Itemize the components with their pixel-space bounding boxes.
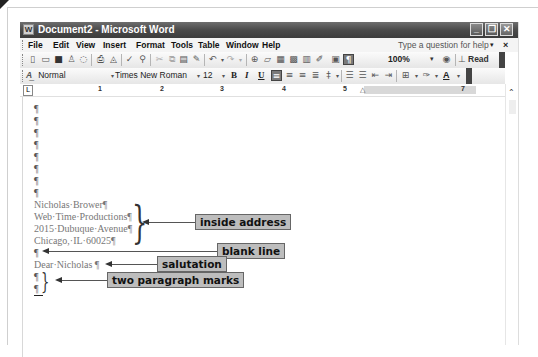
arrow-head-icon bbox=[142, 219, 149, 225]
ruler-number: 4 bbox=[282, 85, 286, 92]
read-icon: ⊥ bbox=[458, 54, 466, 65]
hyperlink-icon[interactable]: ⊕ bbox=[249, 54, 260, 65]
style-dropdown[interactable]: A͟Normal bbox=[26, 69, 106, 82]
paragraph-mark: ¶ bbox=[34, 271, 39, 282]
copy-icon[interactable]: ⧉ bbox=[166, 54, 177, 65]
menu-window[interactable]: Window bbox=[226, 38, 259, 52]
read-button[interactable]: Read bbox=[468, 53, 489, 66]
menu-edit[interactable]: Edit bbox=[53, 38, 69, 52]
menu-format[interactable]: Format bbox=[136, 38, 165, 52]
align-right-icon[interactable]: ≡ bbox=[297, 70, 308, 81]
toolbar-separator bbox=[246, 54, 247, 66]
font-color-dropdown-icon[interactable]: ▾ bbox=[453, 70, 464, 81]
menu-insert[interactable]: Insert bbox=[103, 38, 126, 52]
document-area[interactable]: ¶ ¶ ¶ ¶ ¶ ¶ ¶ ¶ Nicholas·Brower¶ Web·Tim… bbox=[20, 97, 505, 345]
paragraph-mark: ¶ bbox=[34, 139, 39, 150]
toolbar-separator bbox=[341, 70, 342, 82]
new-icon[interactable]: ▯ bbox=[27, 54, 38, 65]
redo-dropdown-icon[interactable]: ▾ bbox=[235, 54, 246, 65]
vertical-scrollbar[interactable]: ⌃ bbox=[505, 84, 519, 345]
scroll-thumb[interactable] bbox=[509, 100, 516, 114]
menu-view[interactable]: View bbox=[76, 38, 95, 52]
print-preview-icon[interactable]: ◬ bbox=[108, 54, 119, 65]
callout-inside-address: inside address bbox=[195, 214, 291, 230]
menu-table[interactable]: Table bbox=[198, 38, 220, 52]
toolbar-separator bbox=[396, 70, 397, 82]
callout-arrow bbox=[62, 280, 107, 281]
ruler-number: 2 bbox=[160, 85, 164, 92]
paragraph-mark: ¶ bbox=[34, 115, 39, 126]
toolbar-separator bbox=[455, 54, 456, 66]
align-center-icon[interactable]: ≡ bbox=[284, 70, 295, 81]
toolbar-separator bbox=[150, 54, 151, 66]
left-margin-line bbox=[22, 97, 23, 357]
horizontal-ruler[interactable]: L 1 2 3 4 5 7 △ bbox=[20, 84, 505, 97]
close-button[interactable]: ✕ bbox=[500, 23, 513, 36]
word-app-icon[interactable]: W bbox=[23, 24, 34, 35]
spelling-icon[interactable]: ✓ bbox=[124, 54, 135, 65]
paste-icon[interactable]: ▤ bbox=[178, 54, 189, 65]
toolbar-options-icon[interactable] bbox=[466, 68, 472, 84]
scroll-up-icon[interactable]: ⌃ bbox=[508, 88, 515, 97]
print-icon[interactable]: ⎙ bbox=[95, 54, 106, 65]
increase-indent-icon[interactable]: ⇥ bbox=[383, 70, 394, 81]
font-color-button[interactable]: A bbox=[443, 69, 450, 82]
paragraph-mark: ¶ bbox=[34, 127, 39, 138]
permission-icon[interactable]: ♙ bbox=[66, 54, 77, 65]
address-line-company: Web·Time·Productions¶ bbox=[34, 211, 132, 222]
help-icon[interactable]: ◉ bbox=[441, 54, 452, 65]
toolbar-grip[interactable] bbox=[22, 70, 25, 82]
callout-arrow bbox=[112, 264, 157, 265]
size-dropdown-arrow-icon[interactable]: ▾ bbox=[218, 70, 229, 81]
decrease-indent-icon[interactable]: ⇤ bbox=[370, 70, 381, 81]
save-icon[interactable]: ■ bbox=[53, 54, 64, 65]
address-line-street: 2015·Dubuque·Avenue¶ bbox=[34, 223, 132, 234]
paragraph-mark: ¶ bbox=[34, 283, 39, 294]
menu-grip[interactable] bbox=[22, 40, 25, 50]
columns-icon[interactable]: ▥ bbox=[301, 54, 312, 65]
zoom-box[interactable]: 100% bbox=[388, 53, 432, 66]
toolbar-grip[interactable] bbox=[22, 54, 25, 66]
justify-icon[interactable]: ≣ bbox=[310, 70, 321, 81]
zoom-dropdown-icon[interactable]: ▾ bbox=[430, 53, 434, 66]
insertion-point bbox=[34, 295, 43, 296]
underline-button[interactable]: U bbox=[258, 69, 265, 82]
email-icon[interactable]: ◌ bbox=[78, 54, 89, 65]
restore-button[interactable]: ❐ bbox=[485, 23, 498, 36]
research-icon[interactable]: ⚲ bbox=[137, 54, 148, 65]
menu-help[interactable]: Help bbox=[262, 38, 280, 52]
show-hide-icon[interactable]: ¶ bbox=[343, 54, 354, 65]
insert-excel-icon[interactable]: ▩ bbox=[288, 54, 299, 65]
format-painter-icon[interactable]: ✎ bbox=[191, 54, 202, 65]
open-icon[interactable]: ▭ bbox=[40, 54, 51, 65]
paragraph-mark: ¶ bbox=[34, 175, 39, 186]
highlight-dropdown-icon[interactable]: ▾ bbox=[431, 70, 442, 81]
italic-button[interactable]: I bbox=[245, 69, 249, 82]
bold-button[interactable]: B bbox=[231, 69, 237, 82]
tables-borders-icon[interactable]: ▱ bbox=[262, 54, 273, 65]
numbering-icon[interactable]: ☰ bbox=[344, 70, 355, 81]
close-document-button[interactable]: × bbox=[503, 38, 508, 52]
style-value: Normal bbox=[38, 70, 65, 80]
tab-selector[interactable]: L bbox=[23, 85, 33, 96]
help-search-box[interactable]: Type a question for help bbox=[398, 38, 489, 52]
arrow-head-icon bbox=[55, 277, 62, 283]
menu-tools[interactable]: Tools bbox=[171, 38, 193, 52]
align-left-icon[interactable]: ≡ bbox=[271, 70, 282, 81]
window-right-edge bbox=[518, 22, 519, 345]
insert-table-icon[interactable]: ▦ bbox=[275, 54, 286, 65]
cut-icon[interactable]: ✂ bbox=[154, 54, 165, 65]
help-dropdown-icon[interactable]: ▾ bbox=[490, 38, 494, 52]
bullets-icon[interactable]: ☰ bbox=[357, 70, 368, 81]
title-bar: W Document2 - Microsoft Word _ ❐ ✕ bbox=[20, 22, 518, 38]
toolbar-separator bbox=[91, 54, 92, 66]
right-indent-marker-icon[interactable]: △ bbox=[360, 86, 365, 94]
drawing-icon[interactable]: ✐ bbox=[314, 54, 325, 65]
toolbar-options-icon[interactable] bbox=[499, 52, 505, 68]
minimize-button[interactable]: _ bbox=[470, 23, 483, 36]
menu-file[interactable]: File bbox=[28, 38, 43, 52]
callout-two-paragraph-marks: two paragraph marks bbox=[107, 272, 244, 288]
document-map-icon[interactable]: ▣ bbox=[330, 54, 341, 65]
window-title: Document2 - Microsoft Word bbox=[38, 22, 174, 38]
borders-icon[interactable]: ⊞ bbox=[400, 70, 411, 81]
